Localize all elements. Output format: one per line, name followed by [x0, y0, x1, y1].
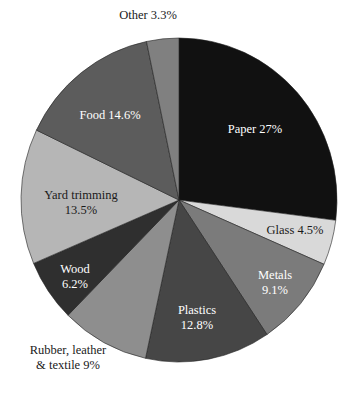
slice-label-wood: Wood6.2%: [60, 262, 90, 291]
slice-label-food: Food 14.6%: [79, 108, 140, 122]
slice-label-paper: Paper 27%: [228, 122, 283, 136]
slice-label-rubber-leather-textile: Rubber, leather& textile 9%: [30, 343, 107, 372]
slice-label-plastics: Plastics12.8%: [178, 303, 216, 332]
pie-chart: Paper 27%Glass 4.5%Metals9.1%Plastics12.…: [0, 0, 357, 400]
slice-label-glass: Glass 4.5%: [267, 223, 324, 237]
slice-label-metals: Metals9.1%: [258, 268, 292, 297]
slice-label-other: Other 3.3%: [119, 8, 177, 22]
